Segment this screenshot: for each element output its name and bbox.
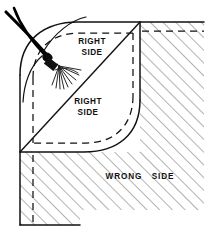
sewing-corner-diagram: RIGHT SIDE RIGHT SIDE WRONG SIDE: [0, 0, 211, 237]
label-wrong-side-word2: SIDE: [152, 172, 175, 181]
diagram-canvas: RIGHT SIDE RIGHT SIDE WRONG SIDE: [0, 0, 211, 237]
label-right-side-lower-line2: SIDE: [78, 108, 99, 117]
label-right-side-upper-line1: RIGHT: [78, 37, 106, 46]
label-right-side-upper-line2: SIDE: [82, 48, 103, 57]
label-right-side-lower-line1: RIGHT: [74, 97, 102, 106]
label-wrong-side-word1: WRONG: [106, 172, 143, 181]
